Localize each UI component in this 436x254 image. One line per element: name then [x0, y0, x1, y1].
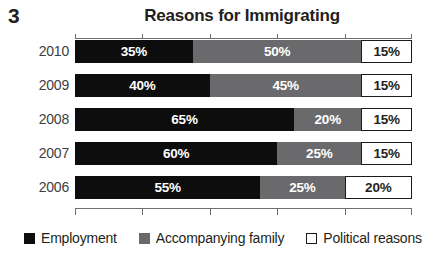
white-square-icon	[306, 233, 317, 244]
bar-segment-accompanying-family-2008: 20%	[294, 108, 361, 131]
bar-row-2008: 200865%20%15%	[75, 108, 412, 131]
chart-legend: EmploymentAccompanying familyPolitical r…	[24, 228, 436, 248]
axis-tick-bottom-20	[142, 209, 143, 215]
gray-square-icon	[139, 233, 150, 244]
bar-segment-employment-2009: 40%	[75, 74, 210, 97]
bar-segment-accompanying-family-2007: 25%	[277, 142, 361, 165]
bar-segment-employment-2008: 65%	[75, 108, 294, 131]
axis-tick-bottom-60	[277, 209, 278, 215]
axis-tick-bottom-0	[75, 209, 76, 215]
bar-row-2009: 200940%45%15%	[75, 74, 412, 97]
bar-row-2007: 200760%25%15%	[75, 142, 412, 165]
bar-segment-accompanying-family-2009: 45%	[210, 74, 362, 97]
bar-segment-political-reasons-2009: 15%	[361, 74, 412, 97]
figure-header: 3 Reasons for Immigrating	[0, 0, 436, 34]
chart-plot-area: 201035%50%15%200940%45%15%200865%20%15%2…	[75, 40, 412, 208]
bar-segment-accompanying-family-2010: 50%	[193, 40, 362, 63]
axis-top-rule	[75, 38, 412, 39]
legend-label-political-reasons: Political reasons	[323, 230, 422, 246]
year-label-2009: 2009	[23, 74, 69, 97]
year-label-2007: 2007	[23, 142, 69, 165]
bar-row-2006: 200655%25%20%	[75, 176, 412, 199]
bar-segment-accompanying-family-2006: 25%	[260, 176, 344, 199]
legend-label-accompanying-family: Accompanying family	[156, 230, 284, 246]
bar-row-2010: 201035%50%15%	[75, 40, 412, 63]
bar-segment-employment-2007: 60%	[75, 142, 277, 165]
axis-tick-bottom-40	[210, 209, 211, 215]
axis-tick-bottom-100	[411, 209, 412, 215]
axis-tick-top-20	[142, 34, 143, 39]
legend-label-employment: Employment	[41, 230, 117, 246]
axis-bottom-rule	[75, 208, 412, 209]
axis-tick-top-100	[411, 34, 412, 39]
year-label-2006: 2006	[23, 176, 69, 199]
bar-segment-political-reasons-2008: 15%	[361, 108, 412, 131]
axis-tick-top-0	[75, 34, 76, 39]
bar-segment-political-reasons-2010: 15%	[361, 40, 412, 63]
bar-segment-employment-2006: 55%	[75, 176, 260, 199]
chart-title: Reasons for Immigrating	[70, 5, 414, 27]
black-square-icon	[24, 233, 35, 244]
bar-segment-employment-2010: 35%	[75, 40, 193, 63]
bar-segment-political-reasons-2006: 20%	[345, 176, 412, 199]
legend-item-employment: Employment	[24, 230, 117, 246]
axis-tick-bottom-80	[345, 209, 346, 215]
axis-tick-top-40	[210, 34, 211, 39]
legend-item-accompanying-family: Accompanying family	[139, 230, 284, 246]
legend-item-political-reasons: Political reasons	[306, 230, 422, 246]
year-label-2008: 2008	[23, 108, 69, 131]
year-label-2010: 2010	[23, 40, 69, 63]
bar-segment-political-reasons-2007: 15%	[361, 142, 412, 165]
axis-tick-top-80	[345, 34, 346, 39]
axis-tick-top-60	[277, 34, 278, 39]
figure-container: 3 Reasons for Immigrating 201035%50%15%2…	[0, 0, 436, 254]
figure-number: 3	[8, 4, 20, 28]
